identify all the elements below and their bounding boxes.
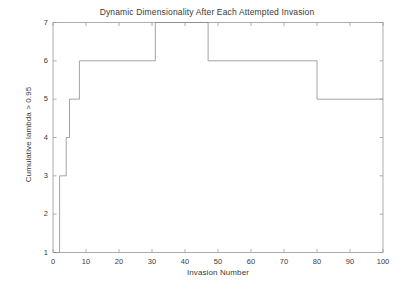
x-tick-label: 100 — [368, 257, 398, 266]
step-line-series — [53, 23, 383, 253]
y-tick-label: 6 — [24, 56, 48, 65]
x-tick-label: 70 — [269, 257, 299, 266]
x-tick-label: 50 — [203, 257, 233, 266]
plot-area — [0, 0, 414, 293]
x-tick-label: 80 — [302, 257, 332, 266]
x-axis-label: Invasion Number — [53, 268, 383, 277]
x-tick-label: 10 — [71, 257, 101, 266]
x-tick-label: 20 — [104, 257, 134, 266]
axes-frame — [53, 23, 383, 253]
x-tick-label: 60 — [236, 257, 266, 266]
x-tick-label: 40 — [170, 257, 200, 266]
y-tick-label: 7 — [24, 18, 48, 27]
y-tick-label: 4 — [24, 133, 48, 142]
plot-frame — [53, 23, 383, 253]
y-tick-label: 3 — [24, 171, 48, 180]
x-tick-label: 90 — [335, 257, 365, 266]
x-tick-label: 0 — [38, 257, 68, 266]
y-tick-label: 5 — [24, 94, 48, 103]
y-tick-label: 1 — [24, 248, 48, 257]
tick-marks — [53, 23, 383, 253]
y-tick-label: 2 — [24, 209, 48, 218]
x-tick-label: 30 — [137, 257, 167, 266]
figure-canvas: Dynamic Dimensionality After Each Attemp… — [0, 0, 414, 293]
